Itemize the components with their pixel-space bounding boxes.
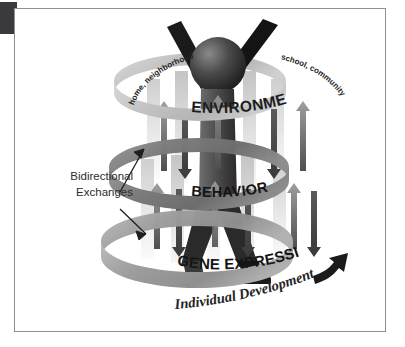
callout-line-2: Exchanges [21, 185, 133, 201]
figure-frame: home, neighborhood school, community ENV… [14, 8, 386, 332]
curved-label-right: school, community [280, 53, 347, 99]
callout-line-1: Bidirectional [21, 169, 133, 185]
curved-up-right-arrow [313, 253, 348, 284]
callout-bidirectional-exchanges: Bidirectional Exchanges [21, 169, 133, 200]
figure-page: home, neighborhood school, community ENV… [0, 0, 405, 347]
